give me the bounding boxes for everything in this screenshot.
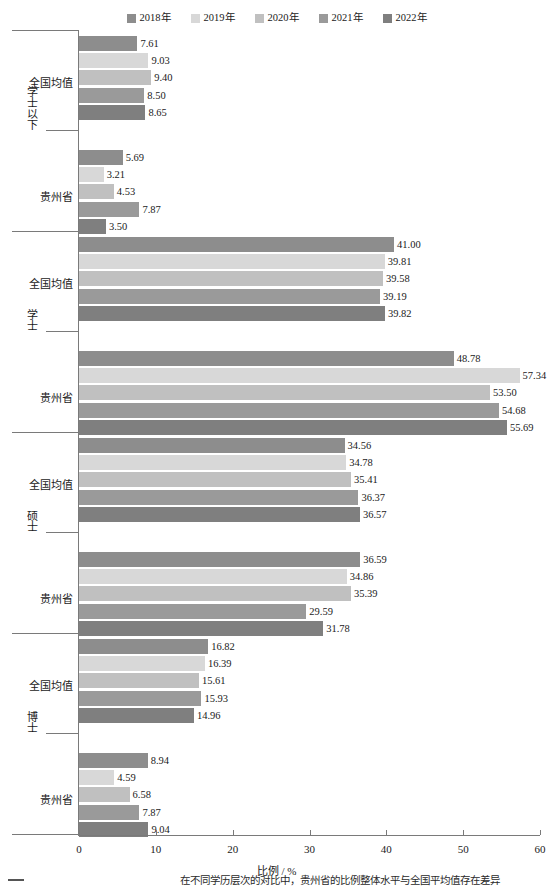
bar-value-label: 9.03 — [151, 53, 169, 68]
bar — [79, 438, 345, 453]
legend-entry-2020: 2020年 — [255, 13, 299, 23]
bar-value-label: 57.34 — [523, 368, 547, 383]
group-label-shuoshi: 硕士 — [14, 510, 40, 532]
legend-swatch-2022 — [383, 14, 392, 23]
bar — [79, 787, 130, 802]
x-axis-tick — [233, 830, 234, 835]
subgroup-tick — [46, 532, 78, 533]
subgroup-label-national-1: 全国均值 — [0, 275, 73, 291]
x-axis-tick-label: 0 — [76, 843, 82, 855]
x-axis-tick-label: 60 — [535, 843, 546, 855]
bar-value-label: 8.94 — [151, 753, 169, 768]
bar — [79, 88, 144, 103]
bar — [79, 455, 346, 470]
bar-value-label: 35.39 — [354, 586, 378, 601]
bar-value-label: 39.58 — [386, 271, 410, 286]
bar-value-label: 34.78 — [349, 455, 373, 470]
subgroup-label-guizhou-3: 贵州省 — [0, 791, 73, 807]
bar — [79, 105, 145, 120]
group-boundary-tick — [12, 231, 78, 232]
bar-value-label: 3.21 — [107, 167, 125, 182]
legend-entry-2021: 2021年 — [319, 13, 363, 23]
x-axis-tick — [156, 830, 157, 835]
x-axis-tick — [463, 830, 464, 835]
group-label-xueshi: 学士 — [14, 309, 40, 331]
subgroup-label-guizhou-2: 贵州省 — [0, 590, 73, 606]
x-axis-tick-label: 40 — [381, 843, 392, 855]
bar-value-label: 3.50 — [109, 219, 127, 234]
bar-value-label: 29.59 — [309, 604, 333, 619]
bar — [79, 552, 360, 567]
bar-value-label: 48.78 — [457, 351, 481, 366]
subgroup-label-guizhou-0: 贵州省 — [0, 188, 73, 204]
value-axis-line — [78, 835, 540, 836]
bar-value-label: 4.53 — [117, 184, 135, 199]
bar-chart-plot: 学士以下 学士 硕士 博士 全国均值 贵州省 全国均值 贵州省 全国均值 贵州省… — [0, 30, 553, 840]
bar — [79, 770, 114, 785]
bar — [79, 306, 385, 321]
bar — [79, 420, 507, 435]
x-axis-tick-label: 10 — [150, 843, 161, 855]
bar-value-label: 16.39 — [208, 656, 232, 671]
bar-value-label: 54.68 — [502, 403, 526, 418]
figure-caption: 在不同学历层次的对比中，贵州省的比例整体水平与全国平均值存在差异 — [0, 872, 553, 888]
legend-entry-2022: 2022年 — [383, 13, 427, 23]
subgroup-tick — [46, 130, 78, 131]
x-axis-tick — [540, 830, 541, 835]
legend-label-2018: 2018年 — [140, 13, 171, 23]
bar-value-label: 4.59 — [117, 770, 135, 785]
bar — [79, 691, 201, 706]
x-axis-tick — [310, 830, 311, 835]
bar-value-label: 31.78 — [326, 621, 350, 636]
bar-value-label: 34.56 — [348, 438, 372, 453]
bar — [79, 202, 139, 217]
bar — [79, 656, 205, 671]
bar — [79, 753, 148, 768]
bar — [79, 403, 499, 418]
bar-value-label: 36.57 — [363, 507, 387, 522]
bar-value-label: 36.37 — [361, 490, 385, 505]
subgroup-tick — [46, 733, 78, 734]
group-label-boshi: 博士 — [14, 711, 40, 733]
legend-swatch-2020 — [255, 14, 264, 23]
x-axis-tick-label: 30 — [304, 843, 315, 855]
bar — [79, 167, 104, 182]
bar — [79, 70, 151, 85]
bar-value-label: 14.96 — [197, 708, 221, 723]
subgroup-label-national-0: 全国均值 — [0, 74, 73, 90]
subgroup-label-guizhou-1: 贵州省 — [0, 389, 73, 405]
bar-value-label: 35.41 — [354, 472, 378, 487]
x-axis-tick — [386, 830, 387, 835]
bar-value-label: 36.59 — [363, 552, 387, 567]
bar-value-label: 7.87 — [142, 805, 160, 820]
bar — [79, 805, 139, 820]
chart-legend: 2018年 2019年 2020年 2021年 2022年 — [0, 13, 553, 23]
bar — [79, 621, 323, 636]
x-axis-tick-label: 50 — [458, 843, 469, 855]
subgroup-tick — [46, 331, 78, 332]
legend-label-2022: 2022年 — [396, 13, 427, 23]
bar — [79, 289, 380, 304]
bar-value-label: 39.81 — [388, 254, 412, 269]
bar-value-label: 39.19 — [383, 289, 407, 304]
legend-label-2019: 2019年 — [204, 13, 235, 23]
bar — [79, 254, 385, 269]
bar-value-label: 8.65 — [148, 105, 166, 120]
bar-value-label: 5.69 — [126, 150, 144, 165]
bar — [79, 237, 394, 252]
bar — [79, 507, 360, 522]
bar-value-label: 34.86 — [350, 569, 374, 584]
bar-value-label: 7.61 — [140, 36, 158, 51]
legend-label-2021: 2021年 — [332, 13, 363, 23]
legend-swatch-2019 — [191, 14, 200, 23]
group-boundary-tick — [12, 834, 78, 835]
bar-value-label: 8.50 — [147, 88, 165, 103]
bar — [79, 368, 520, 383]
bar — [79, 639, 208, 654]
bar-value-label: 15.93 — [204, 691, 228, 706]
bar-value-label: 7.87 — [142, 202, 160, 217]
bar-value-label: 9.40 — [154, 70, 172, 85]
bar-value-label: 15.61 — [202, 673, 226, 688]
bar-value-label: 6.58 — [133, 787, 151, 802]
bar — [79, 150, 123, 165]
